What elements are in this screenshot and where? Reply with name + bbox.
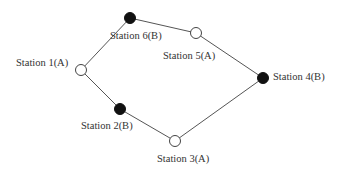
station-node-s3-hollow-icon: [170, 136, 181, 147]
edge-s2-s1: [81, 70, 120, 109]
station-1-label: Station 1(A): [16, 58, 68, 69]
ring-network-diagram: Station 1(A) Station 6(B) Station 5(A) S…: [0, 0, 337, 173]
station-node-s2-filled-icon: [115, 104, 126, 115]
station-3-label: Station 3(A): [157, 154, 209, 165]
station-node-s1-hollow-icon: [76, 65, 87, 76]
station-node-s4-filled-icon: [258, 73, 269, 84]
station-node-s6-filled-icon: [125, 13, 136, 24]
station-5-label: Station 5(A): [163, 51, 215, 62]
diagram-graphics: [0, 0, 337, 173]
edge-s4-s3: [175, 78, 263, 141]
station-6-label: Station 6(B): [110, 31, 162, 42]
station-node-s5-hollow-icon: [191, 28, 202, 39]
station-4-label: Station 4(B): [273, 72, 325, 83]
station-2-label: Station 2(B): [81, 121, 133, 132]
edge-s1-s6: [81, 18, 130, 70]
